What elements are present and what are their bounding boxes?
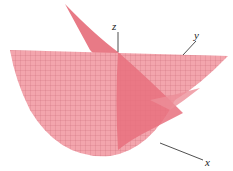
z-axis-label: z [111, 20, 117, 32]
surface-bowl [0, 0, 233, 171]
x-axis [160, 143, 203, 160]
y-axis [183, 41, 196, 55]
x-axis-label: x [204, 156, 210, 168]
surface-plot: z y x [0, 0, 233, 171]
y-axis-label: y [193, 29, 199, 41]
